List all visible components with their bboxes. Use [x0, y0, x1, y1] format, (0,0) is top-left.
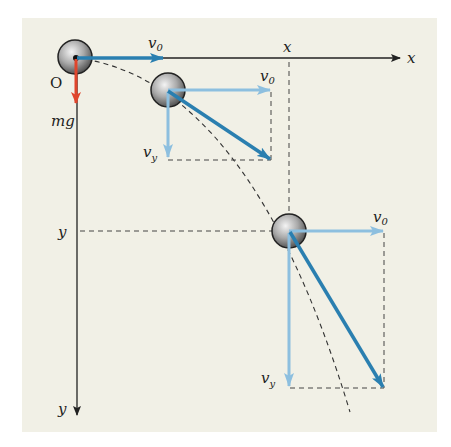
label-v0-ball2: v0 [260, 67, 275, 86]
guide-lines [80, 62, 384, 388]
label-x-marker: x [283, 38, 292, 56]
trajectory-curve [77, 58, 350, 412]
label-y-axis: y [57, 400, 67, 418]
label-origin: O [50, 74, 62, 92]
label-vy-ball2: vy [143, 143, 157, 163]
projectile-diagram: O x x y y mg v0 v0 vy v0 vy [0, 0, 451, 447]
label-x-axis: x [407, 49, 416, 67]
label-y-marker: y [57, 223, 67, 241]
v-arrow-ball3 [290, 232, 383, 387]
label-gravity: mg [51, 112, 75, 130]
label-vy-ball3: vy [261, 369, 275, 389]
v-arrow-ball2 [168, 91, 270, 159]
label-v0-ball3: v0 [373, 208, 388, 227]
label-v0-origin: v0 [148, 34, 163, 53]
